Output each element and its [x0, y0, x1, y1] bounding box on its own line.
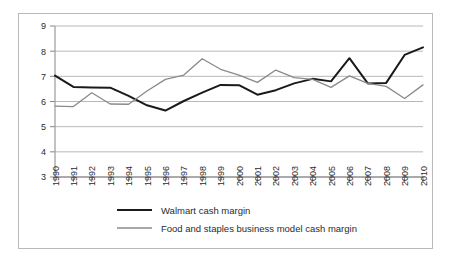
x-axis-tick-label: 1992: [87, 166, 97, 186]
x-axis-tick-label: 2009: [400, 166, 410, 186]
chart-container: 3456789 19901991199219931994199519961997…: [18, 13, 433, 249]
x-axis-tick-label: 2001: [253, 166, 263, 186]
x-axis-tick-label: 1991: [69, 166, 79, 186]
x-axis-tick-label: 1997: [179, 166, 189, 186]
y-axis-tick-labels: 3456789: [41, 21, 46, 182]
x-axis-tick-label: 2010: [419, 166, 429, 186]
x-axis-tick-label: 2006: [345, 166, 355, 186]
legend-label: Food and staples business model cash mar…: [161, 223, 357, 234]
x-axis-tick-label: 2004: [308, 166, 318, 186]
x-axis-tick-label: 1995: [143, 166, 153, 186]
x-axis-tick-label: 2003: [290, 166, 300, 186]
x-axis-tick-label: 1999: [216, 166, 226, 186]
y-axis-tick-label: 7: [41, 72, 46, 82]
x-axis-tick-label: 2005: [327, 166, 337, 186]
line-chart: 3456789 19901991199219931994199519961997…: [19, 14, 432, 248]
x-axis-tick-labels: 1990199119921993199419951996199719981999…: [51, 166, 429, 186]
x-axis-tick-label: 2002: [271, 166, 281, 186]
gridlines: [55, 26, 423, 177]
legend-label: Walmart cash margin: [161, 205, 250, 216]
y-axis-tick-label: 4: [41, 147, 46, 157]
y-axis-tick-label: 3: [41, 172, 46, 182]
y-axis: [50, 26, 55, 177]
y-axis-tick-label: 8: [41, 47, 46, 57]
x-axis-tick-label: 1996: [161, 166, 171, 186]
x-axis-tick-label: 1998: [198, 166, 208, 186]
x-axis-tick-label: 2000: [235, 166, 245, 186]
y-axis-tick-label: 5: [41, 122, 46, 132]
x-axis-tick-label: 2007: [363, 166, 373, 186]
y-axis-tick-label: 9: [41, 21, 46, 31]
y-axis-tick-label: 6: [41, 97, 46, 107]
x-axis-tick-label: 2008: [382, 166, 392, 186]
x-axis-tick-label: 1990: [51, 166, 61, 186]
chart-legend: Walmart cash marginFood and staples busi…: [117, 205, 357, 234]
x-axis-tick-label: 1994: [124, 166, 134, 186]
x-axis-tick-label: 1993: [106, 166, 116, 186]
